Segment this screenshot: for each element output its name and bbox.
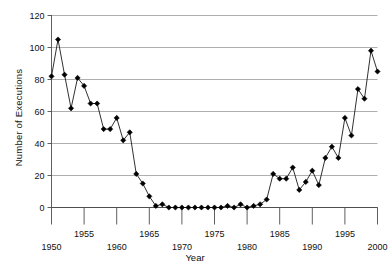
y-tick-label: 20 — [34, 171, 44, 181]
y-tick-label: 100 — [29, 43, 44, 53]
data-point-marker — [310, 168, 315, 173]
data-point-marker — [323, 155, 328, 160]
data-point-marker — [62, 72, 67, 77]
data-point-marker — [55, 37, 60, 42]
data-point-marker — [166, 205, 171, 210]
data-point-marker — [368, 48, 373, 53]
y-tick-labels-group: 020406080100120 — [29, 11, 44, 213]
x-tick-label: 1975 — [204, 229, 224, 239]
x-tick-label: 1960 — [107, 242, 127, 252]
gridlines-group — [52, 16, 378, 208]
data-point-marker — [349, 133, 354, 138]
data-point-marker — [284, 176, 289, 181]
data-point-marker — [199, 205, 204, 210]
data-point-marker — [147, 194, 152, 199]
y-tick-group — [48, 16, 52, 208]
data-point-marker — [140, 181, 145, 186]
data-point-marker — [355, 87, 360, 92]
data-point-marker — [173, 205, 178, 210]
data-point-marker — [205, 205, 210, 210]
y-tick-label: 40 — [34, 139, 44, 149]
data-point-marker — [290, 165, 295, 170]
y-tick-label: 80 — [34, 75, 44, 85]
x-tick-label: 1955 — [74, 229, 94, 239]
data-point-marker — [238, 202, 243, 207]
data-point-marker — [316, 183, 321, 188]
data-point-marker — [68, 106, 73, 111]
x-tick-label: 1950 — [41, 242, 61, 252]
data-point-marker — [212, 205, 217, 210]
x-tick-label: 1995 — [335, 229, 355, 239]
series-markers-group — [49, 37, 380, 210]
x-tick-label: 2000 — [367, 242, 387, 252]
executions-line-chart-figure: Number of Executions Year 19501955196019… — [0, 0, 390, 272]
x-tick-labels-group: 1950195519601965197019751980198519901995… — [41, 229, 387, 252]
data-point-marker — [160, 202, 165, 207]
data-point-marker — [49, 74, 54, 79]
x-tick-label: 1985 — [270, 229, 290, 239]
data-point-marker — [95, 101, 100, 106]
x-tick-label: 1965 — [139, 229, 159, 239]
data-point-marker — [218, 205, 223, 210]
x-tick-label: 1990 — [302, 242, 322, 252]
data-point-marker — [101, 127, 106, 132]
data-point-marker — [179, 205, 184, 210]
x-tick-label: 1970 — [172, 242, 192, 252]
series-line — [52, 40, 378, 208]
data-point-marker — [375, 69, 380, 74]
data-point-marker — [88, 101, 93, 106]
data-point-marker — [336, 155, 341, 160]
data-point-marker — [362, 96, 367, 101]
y-tick-label: 60 — [34, 107, 44, 117]
data-point-marker — [245, 205, 250, 210]
data-point-marker — [231, 205, 236, 210]
data-point-marker — [192, 205, 197, 210]
data-point-marker — [329, 144, 334, 149]
y-tick-label: 120 — [29, 11, 44, 21]
plot-area: 1950195519601965197019751980198519901995… — [0, 0, 390, 272]
x-tick-label: 1980 — [237, 242, 257, 252]
data-point-marker — [186, 205, 191, 210]
data-point-marker — [108, 127, 113, 132]
data-point-marker — [114, 115, 119, 120]
y-tick-label: 0 — [39, 203, 44, 213]
data-point-marker — [342, 115, 347, 120]
